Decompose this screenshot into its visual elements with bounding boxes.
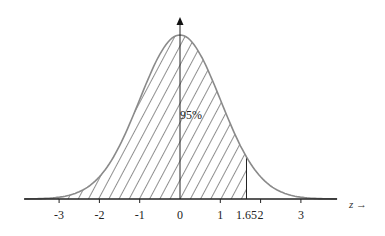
x-tick-label: 1.65 [236,208,257,222]
x-ticks: -3-2-1011.6523 [54,199,304,222]
x-tick-label: -2 [94,208,104,222]
percent-annotation: 95% [180,108,202,122]
x-tick-label: 0 [177,208,183,222]
x-tick-label: -3 [54,208,64,222]
shaded-area [25,35,247,199]
z-axis-label: z → [348,198,367,210]
x-tick-label: 2 [258,208,264,222]
y-axis-arrow-icon [177,17,184,25]
x-tick-label: -1 [135,208,145,222]
x-tick-label: 3 [298,208,304,222]
normal-distribution-chart: -3-2-1011.6523 95% z → [0,0,385,236]
x-tick-label: 1 [217,208,223,222]
